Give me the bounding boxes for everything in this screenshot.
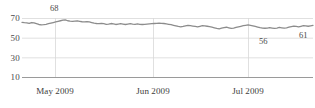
data-line-series-value bbox=[22, 20, 313, 29]
x-axis-tick-may-2009: May 2009 bbox=[22, 86, 88, 96]
x-axis-tick-jun-2009: Jun 2009 bbox=[120, 86, 186, 96]
x-axis-tick-jul-2009: Jul 2009 bbox=[215, 86, 281, 96]
y-axis-tick-70: 70 bbox=[2, 13, 20, 23]
line-chart: 70 50 30 10 May 2009 Jun 2009 Jul 2009 6… bbox=[0, 0, 315, 108]
y-axis-tick-30: 30 bbox=[2, 53, 20, 63]
annotation-low-56: 56 bbox=[259, 36, 268, 46]
y-axis-tick-10: 10 bbox=[2, 72, 20, 82]
annotation-peak-68: 68 bbox=[50, 3, 59, 13]
vertical-gridlines bbox=[56, 18, 249, 77]
y-axis-tick-50: 50 bbox=[2, 33, 20, 43]
annotation-last-61: 61 bbox=[299, 30, 308, 40]
